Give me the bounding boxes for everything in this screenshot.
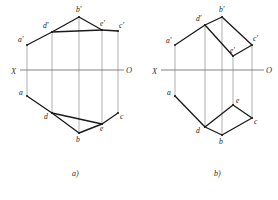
vertex-point-c_prime [251, 44, 253, 46]
edge-b_prime-e_prime [79, 17, 102, 30]
frontal-projection-group: a'b'c'd'e' [18, 5, 124, 46]
vertex-point-d [51, 112, 53, 114]
vertex-point-c [251, 117, 253, 119]
vertex-point-b_prime [221, 16, 223, 18]
vertex-label-a: a [19, 88, 23, 97]
vertex-label-d: d [44, 112, 48, 121]
vertex-point-d_prime [51, 31, 53, 33]
vertex-point-a [26, 95, 28, 97]
edge-e_prime-c_prime [233, 45, 252, 56]
diagram-a: XOa'b'c'd'e'abcdea) [10, 5, 132, 178]
caption-diagram-a: a) [72, 169, 79, 178]
horizontal-projection-group: abcde [19, 88, 124, 144]
vertex-label-c: c [120, 112, 124, 121]
edge-a_prime-d_prime [175, 25, 205, 45]
axis-label-x: X [10, 67, 17, 76]
vertex-point-e_prime [101, 29, 103, 31]
vertex-label-d_prime: d' [43, 21, 49, 30]
horizontal-projection-group: abcde [167, 88, 258, 146]
vertex-label-b: b [219, 137, 223, 146]
edge-d-b [205, 127, 222, 135]
edge-d_prime-e_prime [52, 30, 102, 32]
frontal-projection-group: a'b'c'd'e' [166, 5, 258, 57]
edge-a-d [175, 96, 205, 127]
edge-e_prime-c_prime [102, 30, 118, 31]
vertex-point-a_prime [26, 44, 28, 46]
figure-root: XOa'b'c'd'e'abcdea) XOa'b'c'd'e'abcdeb) [0, 0, 278, 200]
vertex-point-a [174, 95, 176, 97]
vertex-label-c_prime: c' [253, 34, 258, 43]
vertex-point-b [78, 132, 80, 134]
vertex-label-e_prime: e' [230, 46, 235, 55]
vertex-label-c_prime: c' [119, 21, 124, 30]
axis-label-o: O [266, 66, 272, 75]
vertex-point-c_prime [117, 30, 119, 32]
edge-b-c [222, 118, 252, 135]
caption-diagram-b: b) [214, 169, 221, 178]
vertex-point-e_prime [232, 55, 234, 57]
vertex-point-d_prime [204, 24, 206, 26]
vertex-label-b_prime: b' [219, 5, 225, 14]
vertex-label-a_prime: a' [18, 35, 24, 44]
edge-e-c [233, 105, 252, 118]
edge-d_prime-b_prime [205, 17, 222, 25]
edge-b-e [79, 124, 102, 133]
projection-figure-canvas: XOa'b'c'd'e'abcdea) XOa'b'c'd'e'abcdeb) [0, 0, 278, 200]
vertex-label-a: a [167, 88, 171, 97]
diagram-b: XOa'b'c'd'e'abcdeb) [151, 5, 272, 178]
vertex-point-c [117, 112, 119, 114]
projector-lines-group [27, 17, 118, 133]
vertex-point-a_prime [174, 44, 176, 46]
axis-label-o: O [126, 66, 132, 75]
vertex-label-e_prime: e' [100, 19, 105, 28]
vertex-point-b [221, 134, 223, 136]
vertex-point-d [204, 126, 206, 128]
vertex-point-b_prime [78, 16, 80, 18]
edge-d_prime-b_prime [52, 17, 79, 32]
vertex-label-e: e [100, 124, 104, 133]
axis-label-x: X [151, 67, 158, 76]
edge-a_prime-d_prime [27, 32, 52, 45]
edge-a-d [27, 96, 52, 113]
vertex-label-d_prime: d' [196, 14, 202, 23]
vertex-label-c: c [254, 117, 258, 126]
vertex-label-e: e [236, 96, 240, 105]
edge-e-c [102, 113, 118, 124]
vertex-label-d: d [196, 126, 200, 135]
edge-b_prime-c_prime [222, 17, 252, 45]
vertex-label-b: b [76, 135, 80, 144]
vertex-label-a_prime: a' [166, 36, 172, 45]
vertex-label-b_prime: b' [76, 5, 82, 14]
edge-d_prime-e_prime [205, 25, 233, 56]
vertex-point-e [232, 104, 234, 106]
edge-d-e [205, 105, 233, 127]
